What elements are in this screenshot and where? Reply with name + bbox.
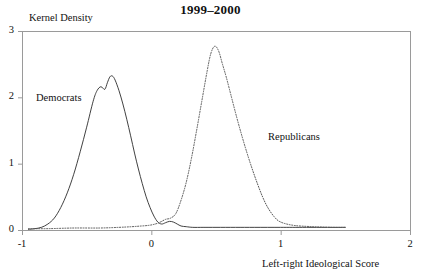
x-tick-label: 0 xyxy=(136,238,166,249)
x-tick-label: 2 xyxy=(395,238,421,249)
y-tick-label: 0 xyxy=(0,223,14,234)
y-tick-label: 3 xyxy=(0,24,14,35)
y-tick-label: 2 xyxy=(0,90,14,101)
series-line-republicans xyxy=(28,46,345,229)
x-tick-label: 1 xyxy=(266,238,296,249)
x-tick-label: -1 xyxy=(7,238,37,249)
y-tick-label: 1 xyxy=(0,157,14,168)
plot-frame xyxy=(23,32,411,231)
plot-area xyxy=(0,0,421,277)
kernel-density-chart: 1999–2000 Kernel Density Left-right Ideo… xyxy=(0,0,421,277)
series-line-democrats xyxy=(28,76,345,230)
